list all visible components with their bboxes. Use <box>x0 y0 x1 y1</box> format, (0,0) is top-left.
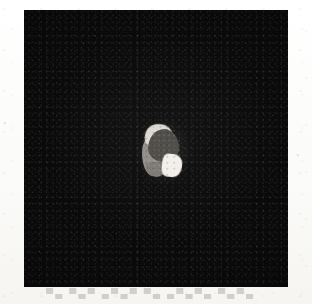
showthrough-text-left: ▪ <box>3 118 8 128</box>
figure-image-panel <box>24 10 288 287</box>
central-specimen <box>142 124 182 178</box>
scanned-page: ▪ ▪ ▀▄ ▀▄▀ ▄▀▄▀ ▀▄ ▄▀▄▀▄ ▀▄▀▄ <box>0 0 312 304</box>
showthrough-text-bottom: ▀▄ ▀▄▀ ▄▀▄▀ ▀▄ ▄▀▄▀▄ ▀▄▀▄ <box>46 288 294 299</box>
specimen-region-white-wedge <box>161 153 183 178</box>
showthrough-text-right: ▪ <box>296 150 301 160</box>
